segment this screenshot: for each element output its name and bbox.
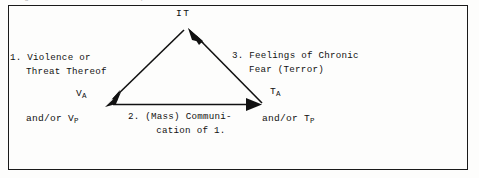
node-label-va-alt-prefix: and/or V [26, 113, 74, 124]
edge-label-3-line2: Fear (Terror) [232, 63, 359, 77]
edge-label-2-line2: cation of 1. [128, 124, 232, 138]
node-label-va-alternate: and/or VP [26, 113, 79, 128]
scanned-figure-page: Diagram of the terrorism process IT VA a… [0, 0, 479, 178]
edge-label-1: 1. Violence orThreat Thereof [10, 51, 107, 78]
edge-label-3: 3. Feelings of ChronicFear (Terror) [232, 49, 359, 76]
node-label-it: IT [176, 8, 191, 21]
node-label-ta-alternate: and/or TP [262, 113, 315, 128]
node-label-ta-sub: A [276, 90, 280, 98]
edge-label-1-line1: 1. Violence or [10, 52, 91, 63]
node-label-ta: TA [270, 86, 281, 101]
edge-label-2: 2. (Mass) Communi-cation of 1. [128, 110, 232, 137]
edge-label-3-line1: 3. Feelings of Chronic [232, 50, 359, 61]
cut-off-caption-text: Diagram of the terrorism process [8, 0, 338, 2]
node-label-va-sub: A [82, 92, 86, 100]
node-label-va: VA [76, 88, 87, 103]
edge-label-1-line2: Threat Thereof [10, 65, 107, 79]
node-label-ta-alt-sub: P [310, 117, 314, 125]
node-label-ta-alt-prefix: and/or T [262, 113, 310, 124]
edge-label-2-line1: 2. (Mass) Communi- [128, 111, 232, 122]
node-label-va-alt-sub: P [74, 117, 78, 125]
